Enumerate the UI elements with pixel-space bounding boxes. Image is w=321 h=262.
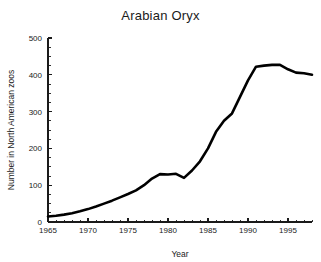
x-tick-label: 1980 bbox=[159, 226, 177, 235]
y-axis: 0100200300400500 bbox=[29, 34, 52, 227]
x-tick-label: 1990 bbox=[239, 226, 257, 235]
x-tick-label: 1995 bbox=[279, 226, 297, 235]
y-tick-label: 500 bbox=[29, 34, 43, 43]
x-tick-label: 1965 bbox=[39, 226, 57, 235]
y-tick-label: 200 bbox=[29, 144, 43, 153]
x-axis-tick-labels: 1965197019751980198519901995 bbox=[39, 226, 297, 235]
y-axis-tick-labels: 0100200300400500 bbox=[29, 34, 43, 227]
x-axis-title: Year bbox=[171, 249, 188, 259]
x-tick-label: 1975 bbox=[119, 226, 137, 235]
data-series-line bbox=[48, 65, 312, 217]
chart-figure: Arabian Oryx 0100200300400500 1965197019… bbox=[0, 0, 321, 262]
x-axis-major-ticks bbox=[48, 218, 288, 222]
x-tick-label: 1970 bbox=[79, 226, 97, 235]
y-tick-label: 100 bbox=[29, 181, 43, 190]
x-tick-label: 1985 bbox=[199, 226, 217, 235]
y-axis-title: Number in North American zoos bbox=[6, 70, 16, 190]
line-chart-plot: 0100200300400500 19651970197519801985199… bbox=[0, 0, 321, 262]
y-tick-label: 300 bbox=[29, 108, 43, 117]
x-axis: 1965197019751980198519901995 bbox=[39, 218, 312, 235]
y-tick-label: 400 bbox=[29, 71, 43, 80]
